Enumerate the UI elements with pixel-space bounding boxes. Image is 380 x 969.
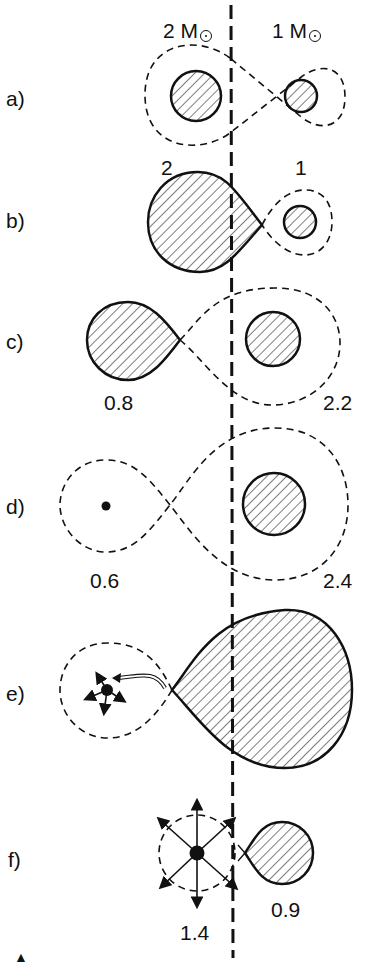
panel-d-graphic <box>60 428 348 580</box>
panel-f-left-mass: 1.4 <box>180 922 209 943</box>
panel-d-left-mass: 0.6 <box>90 570 119 591</box>
panel-label-b: b) <box>6 210 25 231</box>
left-star-mass-label: 2 M <box>163 20 212 42</box>
panel-c-graphic <box>87 288 340 405</box>
panel-e-graphic <box>60 610 352 768</box>
panel-f-right-mass: 0.9 <box>271 899 300 920</box>
panel-label-e: e) <box>6 683 25 704</box>
panel-label-a: a) <box>6 88 25 109</box>
panel-c-left-mass: 0.8 <box>104 392 133 413</box>
right-star-mass-label: 1 M <box>272 20 321 42</box>
panel-a-left-mass: 2 <box>161 157 173 178</box>
panel-a-right-mass: 1 <box>295 157 307 178</box>
panel-label-c: c) <box>6 331 24 352</box>
panel-b-graphic <box>148 172 332 272</box>
binary-evolution-diagram <box>0 0 380 969</box>
panel-c-right-mass: 2.2 <box>323 392 352 413</box>
panel-a-graphic <box>145 45 345 145</box>
panel-label-f: f) <box>8 849 21 870</box>
footer-triangle-marker: ▲ <box>14 950 28 964</box>
panel-d-right-mass: 2.4 <box>323 570 352 591</box>
sun-symbol-icon <box>309 30 321 42</box>
sun-symbol-icon <box>200 30 212 42</box>
panel-label-d: d) <box>6 496 25 517</box>
center-of-mass-axis <box>231 5 233 958</box>
panel-f-graphic <box>159 801 313 906</box>
